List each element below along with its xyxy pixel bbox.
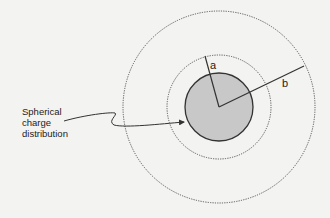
caption-line-3: distribution	[22, 128, 68, 139]
caption-line-1: Spherical	[22, 106, 62, 117]
radius-b-label: b	[282, 77, 288, 89]
gaussian-spheres-diagram: a b Spherical charge distribution	[0, 0, 330, 218]
radius-a-label: a	[210, 59, 217, 71]
caption-line-2: charge	[22, 117, 51, 128]
